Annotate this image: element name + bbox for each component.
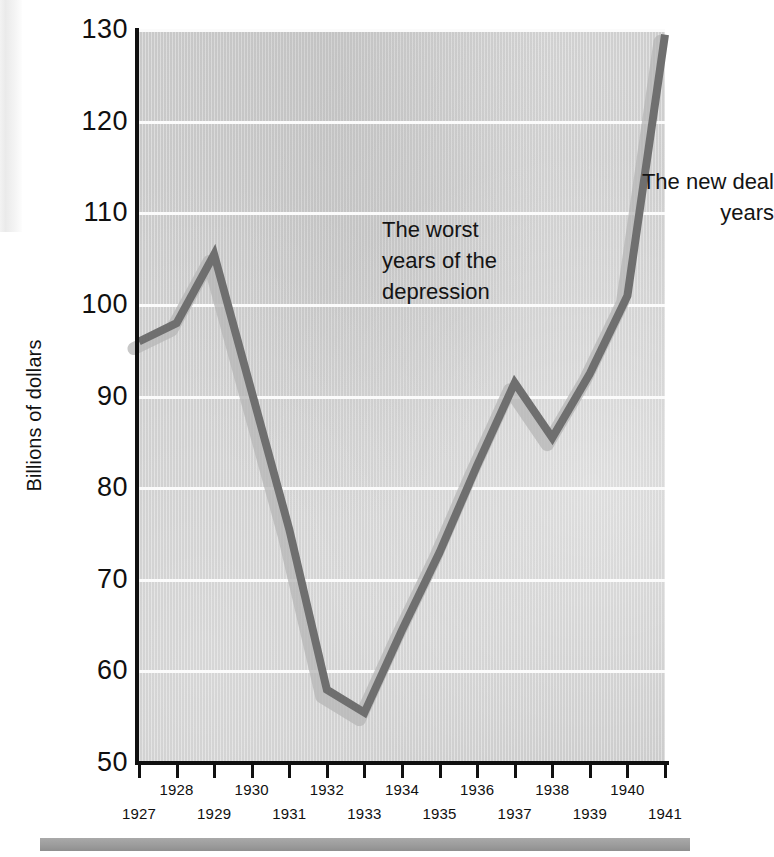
x-axis-tick-label: 1934: [365, 782, 439, 797]
x-axis-tick: [551, 765, 554, 778]
y-axis-tick-label: 110: [8, 199, 128, 226]
x-axis-tick: [664, 765, 667, 778]
x-axis-tick-label: 1930: [215, 782, 289, 797]
x-axis-tick: [476, 765, 479, 778]
y-axis-tick-label: 90: [8, 383, 128, 410]
x-axis-tick: [176, 765, 179, 778]
x-axis-tick: [213, 765, 216, 778]
x-axis-tick-label: 1933: [327, 806, 401, 821]
y-axis-spine: [135, 28, 139, 765]
y-axis-tick-label: 130: [8, 16, 128, 43]
page-bottom-rule: [40, 838, 690, 851]
x-axis-tick: [401, 765, 404, 778]
x-axis-tick-label: 1936: [440, 782, 514, 797]
y-axis-tick-label: 80: [8, 474, 128, 501]
x-axis-tick: [251, 765, 254, 778]
annotation-new-deal-years: The new deal years: [534, 166, 774, 228]
x-axis-tick-label: 1927: [102, 806, 176, 821]
series-line: [139, 35, 665, 713]
x-axis-tick-label: 1935: [403, 806, 477, 821]
y-axis-tick-label: 100: [8, 291, 128, 318]
series-line-shadow: [134, 42, 660, 720]
x-axis-tick-label: 1938: [515, 782, 589, 797]
x-axis-tick-label: 1931: [252, 806, 326, 821]
x-axis-tick-label: 1929: [177, 806, 251, 821]
y-axis-tick-label: 60: [8, 657, 128, 684]
y-axis-tick-label: 120: [8, 108, 128, 135]
y-axis-tick-labels: 5060708090100110120130: [0, 0, 128, 857]
y-axis-tick-label: 70: [8, 566, 128, 593]
x-axis-tick-label: 1932: [290, 782, 364, 797]
plot-area: The worst years of the depression The ne…: [139, 30, 665, 763]
y-axis-tick-label: 50: [8, 749, 128, 776]
x-axis-tick: [589, 765, 592, 778]
series-line-chart: [139, 30, 665, 763]
x-axis-tick-label: 1937: [478, 806, 552, 821]
x-axis-tick-label: 1939: [553, 806, 627, 821]
x-axis-tick: [363, 765, 366, 778]
x-axis-tick: [626, 765, 629, 778]
x-axis-tick: [138, 765, 141, 778]
x-axis-tick: [439, 765, 442, 778]
x-axis-tick: [326, 765, 329, 778]
x-axis-tick-label: 1940: [590, 782, 664, 797]
x-axis-tick: [514, 765, 517, 778]
x-axis-tick-label: 1928: [140, 782, 214, 797]
x-axis-tick-label: 1941: [628, 806, 702, 821]
x-axis-tick: [288, 765, 291, 778]
